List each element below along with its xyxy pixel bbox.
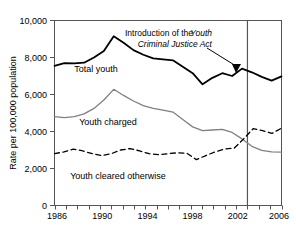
y-axis-title: Rate per 100,000 population — [8, 56, 18, 170]
x-tick-label: 1994 — [137, 211, 157, 221]
x-axis-ticks — [56, 206, 283, 210]
x-tick-label: 1998 — [183, 211, 203, 221]
y-tick-label: 0 — [42, 201, 47, 211]
arrow-head-icon — [232, 64, 241, 73]
y-axis-ticks — [50, 21, 55, 206]
y-tick-label: 10,000 — [19, 16, 47, 26]
y-tick-label: 8,000 — [24, 53, 47, 63]
x-tick-label: 2006 — [269, 211, 289, 221]
series-label-total-youth: Total youth — [74, 64, 118, 74]
youth-crime-rate-line-chart: 0 2,000 4,000 6,000 8,000 10,000 Rate pe… — [0, 0, 296, 235]
annotation-arrow — [207, 48, 241, 73]
y-tick-label: 6,000 — [24, 90, 47, 100]
y-tick-label: 2,000 — [24, 164, 47, 174]
annotation-line-1-prefix: Introduction of the — [125, 28, 193, 38]
x-tick-label: 1986 — [47, 211, 67, 221]
series-label-youth-charged: Youth charged — [79, 117, 137, 127]
x-axis-tick-labels: 1986 1990 1994 1998 2002 2006 — [47, 211, 289, 221]
series-label-youth-cleared-otherwise: Youth cleared otherwise — [70, 171, 166, 181]
chart-container: 0 2,000 4,000 6,000 8,000 10,000 Rate pe… — [0, 0, 296, 235]
annotation-line-2-italic: Criminal Justice Act — [138, 39, 213, 49]
y-tick-label: 4,000 — [24, 127, 47, 137]
y-axis-tick-labels: 0 2,000 4,000 6,000 8,000 10,000 — [19, 16, 47, 211]
x-tick-label: 1990 — [92, 211, 112, 221]
annotation-line-1-italic: Youth — [190, 28, 212, 38]
x-tick-label: 2002 — [228, 211, 248, 221]
